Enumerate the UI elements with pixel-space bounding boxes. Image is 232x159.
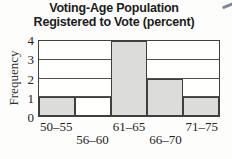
chart-title-line1: Voting-Age Population — [0, 1, 228, 15]
bar-61–65 — [111, 41, 147, 116]
bar-56–60 — [75, 97, 111, 116]
y-tick-0: 0 — [28, 111, 35, 124]
y-tick-1: 1 — [28, 91, 35, 104]
x-label-66–70: 66–70 — [149, 133, 182, 146]
bar-66–70 — [147, 79, 183, 117]
y-tick-4: 4 — [28, 34, 35, 47]
bar-71–75 — [183, 97, 219, 116]
histogram-figure: Voting-Age Population Registered to Vote… — [0, 0, 232, 159]
x-label-71–75: 71–75 — [186, 120, 219, 133]
plot-area — [38, 40, 220, 117]
x-label-56–60: 56–60 — [76, 133, 109, 146]
x-label-61–65: 61–65 — [113, 120, 146, 133]
y-tick-3: 3 — [28, 53, 35, 66]
x-axis-labels: 50–5556–6061–6566–7071–75 — [38, 117, 220, 147]
y-axis-ticks: 01234 — [0, 40, 34, 117]
x-label-50–55: 50–55 — [40, 120, 73, 133]
bar-50–55 — [39, 97, 75, 116]
chart-title: Voting-Age Population Registered to Vote… — [0, 1, 228, 29]
y-tick-2: 2 — [28, 72, 35, 85]
chart-title-line2: Registered to Vote (percent) — [0, 15, 228, 29]
